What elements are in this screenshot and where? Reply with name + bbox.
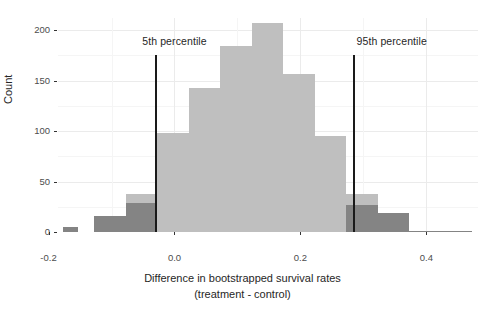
x-tick-mark (426, 232, 427, 235)
y-tick-label: 0 (24, 226, 50, 237)
y-tick-mark (54, 131, 57, 132)
y-axis-title: Count (2, 75, 14, 104)
reference-line-label-p95: 95th percentile (357, 35, 427, 47)
reference-line-p95 (353, 55, 355, 232)
histogram-figure: 5th percentile95th percentile 0501001502… (0, 0, 485, 309)
x-axis-title: Difference in bootstrapped survival rate… (0, 272, 485, 284)
histogram-bar (94, 216, 125, 232)
y-tick-label: 100 (24, 125, 50, 136)
histogram-bar (126, 203, 157, 232)
histogram-bar (283, 74, 314, 232)
x-tick-mark (49, 232, 50, 235)
x-tick-label: 0.4 (404, 252, 448, 263)
y-tick-mark (54, 30, 57, 31)
gridline-x-major (426, 18, 427, 232)
plot-panel: 5th percentile95th percentile (58, 18, 478, 232)
histogram-bar (157, 133, 188, 232)
y-tick-mark (54, 232, 57, 233)
reference-line-p5 (155, 55, 157, 232)
x-tick-mark (300, 232, 301, 235)
histogram-bar (252, 23, 283, 232)
histogram-bar (346, 205, 377, 232)
y-tick-label: 200 (24, 24, 50, 35)
gridline-x-minor (112, 18, 113, 232)
x-tick-label: -0.2 (27, 252, 71, 263)
y-tick-mark (54, 182, 57, 183)
x-tick-mark (174, 232, 175, 235)
x-tick-label: 0.0 (152, 252, 196, 263)
y-tick-label: 50 (24, 176, 50, 187)
histogram-bar (409, 231, 472, 232)
x-axis-subtitle: (treatment - control) (0, 288, 485, 300)
y-tick-label: 150 (24, 75, 50, 86)
x-tick-label: 0.2 (278, 252, 322, 263)
histogram-bar (378, 213, 409, 232)
reference-line-label-p5: 5th percentile (142, 35, 206, 47)
histogram-bar (189, 88, 220, 232)
histogram-bar (63, 227, 79, 232)
histogram-bar (315, 136, 346, 232)
histogram-bar (220, 46, 251, 232)
y-tick-mark (54, 81, 57, 82)
